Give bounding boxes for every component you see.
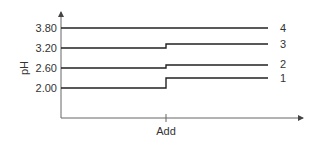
series-label-3: 3	[280, 38, 286, 50]
series-label-4: 4	[280, 22, 286, 34]
series-line-2	[61, 65, 268, 68]
series-label-1: 1	[280, 72, 286, 84]
y-tick-label: 2.00	[36, 82, 57, 94]
y-tick-label: 3.80	[36, 22, 57, 34]
x-tick-label-add: Add	[156, 125, 176, 137]
y-axis-title: pH	[18, 61, 30, 75]
series-line-3	[61, 44, 268, 48]
y-tick-label: 3.20	[36, 42, 57, 54]
ph-step-chart: 3.80 3.20 2.60 2.00 pH Add 4 3 2 1	[0, 0, 313, 146]
series-line-1	[61, 78, 268, 88]
series-label-2: 2	[280, 58, 286, 70]
y-tick-label: 2.60	[36, 62, 57, 74]
